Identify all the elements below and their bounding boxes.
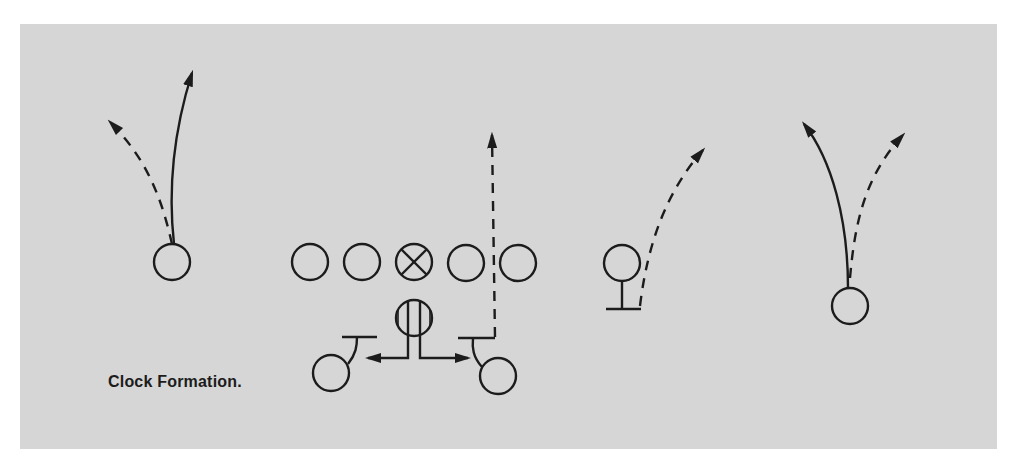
lineman-1 (292, 244, 328, 280)
left-end-player (110, 73, 192, 280)
wing-route-dashed (640, 150, 703, 306)
right-back-player (458, 338, 516, 394)
center-player (396, 244, 432, 280)
left-end-route-dashed (110, 122, 172, 244)
diagram-caption: Clock Formation. (108, 373, 242, 391)
offensive-line (292, 244, 536, 281)
lineman-3 (448, 245, 484, 281)
vertical-route-dashed (492, 135, 495, 337)
wing-player (604, 150, 703, 309)
right-end-player (804, 124, 903, 324)
quarterback-player (368, 300, 468, 358)
lineman-2 (344, 244, 380, 280)
left-end-route-solid (172, 73, 192, 244)
play-diagram (0, 0, 1027, 470)
right-end-route-solid (804, 124, 848, 288)
left-back-player (313, 337, 377, 391)
right-end-route-dashed (850, 135, 903, 278)
lineman-4 (500, 245, 536, 281)
